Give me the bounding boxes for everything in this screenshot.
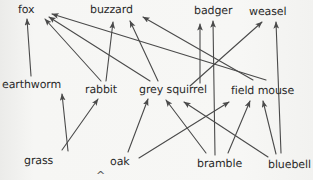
arrow-bramble-to-field_mouse bbox=[228, 101, 250, 153]
node-label-oak: oak bbox=[110, 156, 130, 168]
arrow-bramble-to-badger bbox=[213, 21, 215, 155]
arrow-grey_squirrel-to-buzzard bbox=[130, 21, 158, 81]
arrow-grey_squirrel-to-fox bbox=[49, 17, 150, 81]
arrow-field_mouse-to-buzzard bbox=[143, 17, 253, 80]
arrow-rabbit-to-fox bbox=[45, 19, 101, 81]
food-web-diagram: foxbuzzardbadgerweaselearthwormrabbitgre… bbox=[0, 0, 313, 180]
node-label-rabbit: rabbit bbox=[85, 84, 117, 96]
arrow-bluebell-to-field_mouse bbox=[263, 101, 276, 154]
node-label-grass: grass bbox=[24, 155, 53, 167]
arrow-oak-to-grey_squirrel bbox=[128, 99, 148, 152]
node-label-bramble: bramble bbox=[197, 158, 242, 170]
arrow-oak-to-field_mouse bbox=[139, 102, 229, 158]
arrow-grass-to-rabbit bbox=[62, 99, 98, 150]
stray-caret-mark: ^ bbox=[96, 172, 106, 180]
arrow-earthworm-to-fox bbox=[27, 19, 31, 76]
arrow-field_mouse-to-weasel bbox=[190, 22, 262, 86]
node-label-badger: badger bbox=[194, 5, 232, 17]
node-label-field_mouse: field mouse bbox=[231, 85, 294, 97]
node-label-grey_squirrel: grey squirrel bbox=[139, 84, 207, 96]
node-label-fox: fox bbox=[18, 4, 34, 16]
node-label-bluebell: bluebell bbox=[268, 159, 311, 171]
node-label-earthworm: earthworm bbox=[2, 79, 61, 91]
arrow-bluebell-to-grey_squirrel bbox=[184, 102, 268, 157]
node-label-weasel: weasel bbox=[249, 6, 286, 18]
arrow-bramble-to-grey_squirrel bbox=[166, 100, 206, 153]
node-label-buzzard: buzzard bbox=[90, 4, 133, 16]
